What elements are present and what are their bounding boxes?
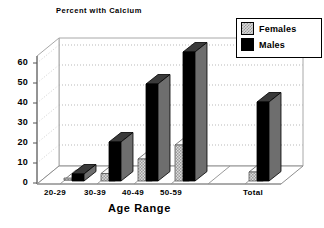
y-tick-20: 20 (6, 137, 28, 147)
x-tick-total: Total (243, 188, 263, 197)
y-tick-40: 40 (6, 97, 28, 107)
chart-legend: Females Males (236, 18, 322, 58)
x-tick-50-59: 50-59 (160, 188, 182, 197)
bar-male-total (257, 93, 281, 182)
x-tick-30-39: 30-39 (84, 188, 106, 197)
legend-swatch-females-icon (241, 22, 254, 35)
calcium-bar-chart: Percent with Calcium (0, 0, 324, 228)
bar-male-30-39 (109, 133, 133, 182)
legend-item-females: Females (241, 22, 296, 35)
legend-swatch-males-icon (241, 38, 254, 51)
x-axis-title: Age Range (108, 202, 171, 214)
left-wall (37, 38, 59, 184)
legend-item-males: Males (241, 38, 285, 51)
legend-label-females: Females (259, 24, 296, 34)
bar-male-40-49 (146, 75, 170, 182)
y-tick-30: 30 (6, 117, 28, 127)
y-tick-50: 50 (6, 77, 28, 87)
y-tick-60: 60 (6, 57, 28, 67)
y-axis (33, 56, 37, 184)
x-tick-20-29: 20-29 (44, 188, 66, 197)
y-tick-0: 0 (6, 177, 28, 187)
legend-label-males: Males (259, 40, 285, 50)
bar-male-50-59 (183, 43, 207, 182)
x-tick-40-49: 40-49 (122, 188, 144, 197)
y-tick-10: 10 (6, 157, 28, 167)
